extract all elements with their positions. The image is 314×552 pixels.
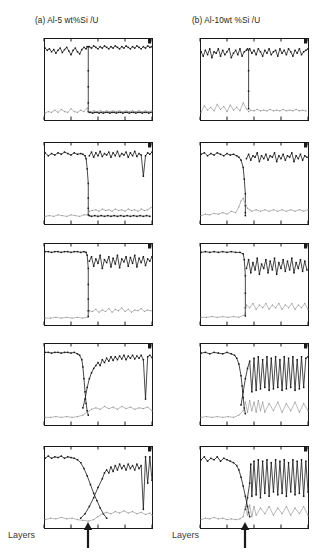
series-marker [93,519,94,520]
series-marker [204,152,206,154]
series-marker [137,310,138,311]
series-marker [220,154,222,156]
series-marker [130,257,132,259]
series-marker [248,111,249,112]
series-marker [92,112,94,114]
series-marker [226,459,228,461]
series-marker [277,402,278,403]
series-marker [255,494,257,496]
series-marker [96,500,98,502]
series-marker [245,215,247,217]
series-marker [250,272,252,274]
series-marker [82,154,84,156]
series-marker [79,216,80,217]
series-marker [89,211,90,212]
series-marker [67,112,68,113]
series-marker [106,110,107,111]
series-marker [128,309,129,310]
series-marker [205,214,206,215]
series-marker [130,48,132,50]
series-marker [99,312,100,313]
series-marker [97,48,99,50]
series-marker [298,158,300,160]
series-marker [277,494,279,496]
series-marker [123,47,125,49]
series-marker [67,456,69,458]
series-marker [258,400,259,401]
series-marker [85,403,87,405]
series-marker [209,48,211,50]
series-marker [200,352,202,354]
series-marker [117,409,118,410]
series-marker [138,153,140,155]
series-marker [117,47,119,49]
series-marker [134,255,136,256]
series-marker [276,161,278,163]
series-marker [51,112,52,113]
series-marker [301,307,302,308]
series-marker [118,210,119,211]
series-marker [132,465,134,467]
series-marker [79,53,81,55]
series-marker [77,416,78,417]
series-marker [104,362,106,364]
series-marker [117,151,119,153]
series-marker [207,155,209,157]
series-marker [286,54,288,56]
series-marker [53,49,55,51]
series-marker [49,48,51,50]
series-marker [251,516,252,517]
series-marker [132,110,133,111]
series-marker [245,315,247,317]
series-marker [301,54,303,56]
series-marker [240,375,242,377]
series-marker [243,102,244,103]
series-marker [98,516,99,517]
series-marker [125,256,127,258]
series-marker [295,507,296,508]
series-marker [121,307,122,308]
series-marker [125,311,126,312]
series-marker [269,155,271,157]
series-marker [271,357,273,359]
series-marker [282,513,283,514]
series-marker [281,390,283,392]
series-marker [112,47,114,49]
series-marker [245,275,247,277]
series-marker [143,359,145,361]
series-marker [91,151,93,153]
series-marker [108,151,110,153]
series-marker [273,410,274,411]
series-marker [304,260,306,262]
series-marker [139,112,141,114]
series-marker [274,152,276,154]
series-marker [262,460,264,462]
series-marker [264,412,265,413]
series-marker [251,410,252,411]
series-marker [104,153,106,155]
series-marker [80,153,82,155]
series-marker [90,111,91,112]
series-marker [86,255,88,256]
series-marker [55,518,56,519]
series-marker [120,112,122,114]
series-marker [108,209,109,210]
series-marker [138,257,140,259]
series-marker [303,496,305,498]
series-marker [132,46,134,48]
series-marker [262,307,263,308]
series-marker [233,316,234,317]
series-marker [302,159,304,161]
series-marker [303,51,305,53]
series-marker [308,410,309,411]
series-marker [210,107,211,108]
series-marker [298,304,299,305]
series-marker [95,407,96,408]
series-marker [103,111,104,112]
series-marker [146,215,148,217]
series-marker [70,154,72,156]
series-marker [276,110,277,111]
series-marker [108,256,110,258]
series-marker [88,70,90,72]
series-marker [123,355,125,357]
